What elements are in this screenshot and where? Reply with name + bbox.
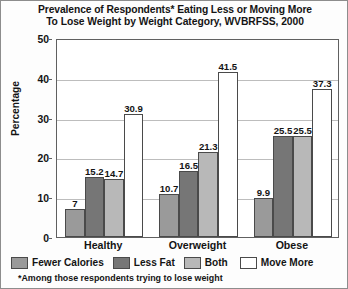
y-axis-tick-50: 50 xyxy=(37,34,49,45)
chart-title-line-1: Prevalence of Respondents* Eating Less o… xyxy=(1,4,348,16)
bar-value-label: 30.9 xyxy=(124,104,143,114)
bar-healthy-fewer-calories[interactable]: 7 xyxy=(65,209,85,237)
chart-footnote: *Among those respondents trying to lose … xyxy=(18,273,223,283)
bar-value-label: 25.5 xyxy=(293,126,312,136)
bar-obese-move-more[interactable]: 37.3 xyxy=(312,89,332,237)
y-axis-tick-mark xyxy=(49,238,52,239)
y-axis-tick-mark xyxy=(49,79,52,80)
y-axis-tick-40: 40 xyxy=(37,73,49,84)
bar-value-label: 41.5 xyxy=(219,62,238,72)
bar-chart-figure: Prevalence of Respondents* Eating Less o… xyxy=(0,0,348,289)
y-axis-tick-mark xyxy=(49,198,52,199)
y-axis-tick-30: 30 xyxy=(37,113,49,124)
bar-value-label: 15.2 xyxy=(85,167,104,177)
legend-label: Less Fat xyxy=(134,257,175,268)
bar-value-label: 14.7 xyxy=(105,169,124,179)
bar-overweight-move-more[interactable]: 41.5 xyxy=(218,72,238,237)
bar-group-healthy: 715.214.730.9 xyxy=(65,40,143,237)
legend-swatch-icon xyxy=(11,257,28,269)
bar-obese-fewer-calories[interactable]: 9.9 xyxy=(254,198,274,237)
bar-overweight-fewer-calories[interactable]: 10.7 xyxy=(159,194,179,237)
bar-healthy-less-fat[interactable]: 15.2 xyxy=(85,177,105,237)
bar-value-label: 16.5 xyxy=(179,161,198,171)
y-axis-tick-mark xyxy=(49,119,52,120)
chart-title-line-2: To Lose Weight by Weight Category, WVBRF… xyxy=(1,16,348,28)
x-axis-label-obese: Obese xyxy=(276,239,308,251)
bar-group-obese: 9.925.525.537.3 xyxy=(254,40,332,237)
chart-legend: Fewer CaloriesLess FatBothMove More xyxy=(11,255,343,270)
legend-label: Both xyxy=(205,257,228,268)
y-axis-tick-10: 10 xyxy=(37,193,49,204)
y-axis-tick-labels: 01020304050 xyxy=(1,39,52,238)
x-axis-label-overweight: Overweight xyxy=(169,239,227,251)
bar-value-label: 21.3 xyxy=(199,142,218,152)
bar-group-overweight: 10.716.521.341.5 xyxy=(159,40,237,237)
legend-swatch-icon xyxy=(240,257,257,269)
legend-item-less-fat[interactable]: Less Fat xyxy=(113,257,175,269)
legend-item-fewer-calories[interactable]: Fewer Calories xyxy=(11,257,104,269)
legend-label: Move More xyxy=(261,257,314,268)
legend-swatch-icon xyxy=(184,257,201,269)
y-axis-tick-20: 20 xyxy=(37,153,49,164)
bar-obese-both[interactable]: 25.5 xyxy=(293,136,313,237)
bar-value-label: 25.5 xyxy=(274,126,293,136)
bar-value-label: 7 xyxy=(72,199,77,209)
bar-value-label: 37.3 xyxy=(313,79,332,89)
legend-swatch-icon xyxy=(113,257,130,269)
x-axis-label-healthy: Healthy xyxy=(84,239,122,251)
bar-healthy-move-more[interactable]: 30.9 xyxy=(124,114,144,237)
legend-item-move-more[interactable]: Move More xyxy=(240,257,314,269)
bar-obese-less-fat[interactable]: 25.5 xyxy=(273,136,293,237)
bar-value-label: 9.9 xyxy=(257,188,270,198)
bar-healthy-both[interactable]: 14.7 xyxy=(104,179,124,238)
legend-label: Fewer Calories xyxy=(32,257,104,268)
y-axis-tick-mark xyxy=(49,158,52,159)
plot-area: 715.214.730.910.716.521.341.59.925.525.5… xyxy=(56,39,339,238)
bar-overweight-both[interactable]: 21.3 xyxy=(198,152,218,237)
bar-value-label: 10.7 xyxy=(160,184,179,194)
chart-title: Prevalence of Respondents* Eating Less o… xyxy=(1,4,348,29)
bar-overweight-less-fat[interactable]: 16.5 xyxy=(179,171,199,237)
x-axis-category-labels: HealthyOverweightObese xyxy=(56,239,339,254)
y-axis-tick-mark xyxy=(49,39,52,40)
legend-item-both[interactable]: Both xyxy=(184,257,228,269)
